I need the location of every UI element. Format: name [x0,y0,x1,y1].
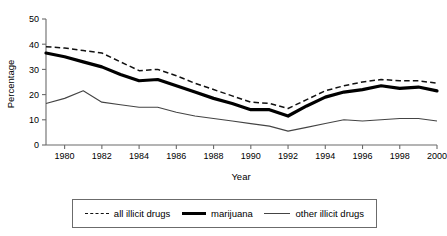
y-axis-title: Percentage [5,60,16,109]
legend-label-all-illicit-drugs: all illicit drugs [114,208,171,219]
x-tick-label: 1984 [129,151,149,161]
chart-legend: all illicit drugs marijuana other illici… [72,199,377,228]
series-line-other-illicit-drugs [46,91,437,131]
line-chart-plot: Percentage 01020304050 19801982198419861… [0,0,447,190]
chart-figure: Percentage 01020304050 19801982198419861… [0,0,447,236]
x-axis-ticks: 1980198219841986198819901992199419961998… [55,145,447,161]
x-tick-label: 2000 [427,151,447,161]
y-tick-label: 40 [29,40,39,50]
thin-line-icon [264,213,290,214]
y-tick-label: 30 [29,65,39,75]
legend-item-marijuana: marijuana [182,208,253,219]
x-tick-label: 1992 [278,151,298,161]
legend-item-other-illicit-drugs: other illicit drugs [264,208,364,219]
y-axis-ticks: 01020304050 [29,14,46,150]
x-tick-label: 1986 [166,151,186,161]
y-tick-label: 50 [29,14,39,24]
y-tick-label: 20 [29,90,39,100]
legend-label-other-illicit-drugs: other illicit drugs [295,208,364,219]
x-tick-label: 1994 [315,151,335,161]
dashed-line-icon [85,213,109,214]
y-tick-label: 0 [34,140,39,150]
x-tick-label: 1990 [241,151,261,161]
chart-svg: Percentage 01020304050 19801982198419861… [0,0,447,190]
series-line-marijuana [46,53,437,116]
series-line-all-illicit-drugs [46,47,437,109]
x-tick-label: 1998 [390,151,410,161]
x-tick-label: 1980 [55,151,75,161]
x-axis-title: Year [231,171,250,182]
legend-item-all-illicit-drugs: all illicit drugs [85,208,171,219]
y-tick-label: 10 [29,115,39,125]
legend-label-marijuana: marijuana [211,208,253,219]
x-tick-label: 1982 [92,151,112,161]
thick-line-icon [182,212,206,215]
x-tick-label: 1996 [353,151,373,161]
x-tick-label: 1988 [204,151,224,161]
